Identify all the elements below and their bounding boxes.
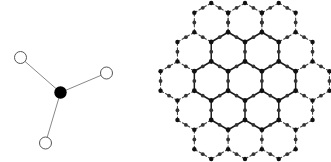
- lattice-node-midpoint: [252, 35, 256, 39]
- lattice-node-midpoint: [226, 138, 230, 142]
- lattice-node-midpoint: [235, 35, 239, 39]
- lattice-node-vertex: [260, 147, 264, 151]
- lattice-node-vertex: [158, 89, 162, 93]
- lattice-node-vertex: [192, 147, 196, 151]
- lattice-node-midpoint: [268, 6, 272, 10]
- lattice-node-midpoint: [201, 64, 205, 68]
- lattice-node-vertex: [192, 11, 196, 15]
- lattice-node-midpoint: [277, 108, 281, 112]
- lattice-node-vertex: [243, 40, 248, 45]
- lattice-node-vertex: [175, 40, 179, 44]
- lattice-node-vertex: [277, 1, 281, 5]
- lattice-node-midpoint: [167, 64, 171, 68]
- lattice-node-midpoint: [311, 108, 315, 112]
- lattice-node-midpoint: [268, 35, 272, 39]
- lattice-node-vertex: [226, 11, 230, 15]
- lattice-node-vertex: [209, 157, 213, 161]
- lattice-node-midpoint: [235, 6, 239, 10]
- central-atom: [54, 86, 66, 98]
- lattice-node-vertex: [277, 157, 281, 161]
- lattice-node-midpoint: [294, 21, 298, 25]
- lattice-node-midpoint: [252, 64, 256, 68]
- lattice-node-vertex: [243, 59, 248, 64]
- lattice-node-vertex: [175, 98, 179, 102]
- lattice-node-midpoint: [260, 79, 264, 83]
- lattice-node-vertex: [276, 118, 281, 123]
- lattice-node-vertex: [310, 59, 314, 63]
- lattice-node-midpoint: [218, 152, 222, 156]
- lattice-node-midpoint: [277, 50, 281, 54]
- ligand-atom-right: [101, 67, 113, 79]
- lattice-node-midpoint: [302, 35, 306, 39]
- lattice-node-vertex: [293, 69, 298, 74]
- lattice-node-midpoint: [209, 108, 213, 112]
- lattice-node-midpoint: [184, 35, 188, 39]
- lattice-node-vertex: [243, 98, 248, 103]
- lattice-node-midpoint: [311, 50, 315, 54]
- lattice-node-vertex: [175, 118, 179, 122]
- lattice-node-midpoint: [243, 50, 247, 54]
- lattice-node-midpoint: [319, 94, 323, 98]
- lattice-node-midpoint: [235, 64, 239, 68]
- lattice-node-vertex: [243, 157, 247, 161]
- lattice-node-midpoint: [268, 152, 272, 156]
- lattice-node-midpoint: [285, 123, 289, 127]
- lattice-node-vertex: [243, 118, 248, 123]
- lattice-node-midpoint: [201, 6, 205, 10]
- lattice-node-midpoint: [319, 64, 323, 68]
- lattice-node-vertex: [310, 40, 314, 44]
- lattice-node-midpoint: [285, 64, 289, 68]
- lattice-node-vertex: [192, 30, 196, 34]
- lattice-node-vertex: [226, 127, 231, 132]
- lattice-node-vertex: [259, 69, 264, 74]
- lattice-node-midpoint: [167, 94, 171, 98]
- lattice-node-midpoint: [285, 6, 289, 10]
- lattice-node-vertex: [293, 128, 297, 132]
- lattice-node-vertex: [226, 30, 231, 35]
- lattice-node-vertex: [276, 98, 281, 103]
- lattice-node-vertex: [209, 98, 214, 103]
- lattice-node-midpoint: [268, 94, 272, 98]
- lattice-node-vertex: [158, 69, 162, 73]
- figure-container: [0, 0, 331, 162]
- lattice-node-midpoint: [159, 79, 163, 83]
- lattice-node-midpoint: [218, 123, 222, 127]
- lattice-node-midpoint: [294, 79, 298, 83]
- lattice-node-midpoint: [285, 94, 289, 98]
- lattice-node-vertex: [259, 30, 264, 35]
- lattice-node-midpoint: [302, 123, 306, 127]
- lattice-node-vertex: [209, 1, 213, 5]
- lattice-node-vertex: [259, 88, 264, 93]
- lattice-node-midpoint: [184, 64, 188, 68]
- lattice-node-midpoint: [201, 35, 205, 39]
- lattice-node-midpoint: [268, 123, 272, 127]
- ligand-atom-bottom: [40, 137, 52, 149]
- lattice-node-midpoint: [218, 6, 222, 10]
- lattice-node-vertex: [259, 127, 264, 132]
- lattice-node-midpoint: [285, 35, 289, 39]
- lattice-node-vertex: [209, 40, 214, 45]
- lattice-node-midpoint: [218, 94, 222, 98]
- lattice-node-midpoint: [201, 123, 205, 127]
- lattice-node-midpoint: [184, 94, 188, 98]
- lattice-node-midpoint: [252, 94, 256, 98]
- lattice-node-midpoint: [252, 152, 256, 156]
- lattice-node-vertex: [192, 88, 197, 93]
- lattice-node-midpoint: [226, 21, 230, 25]
- lattice-node-vertex: [293, 11, 297, 15]
- lattice-node-midpoint: [201, 152, 205, 156]
- lattice-node-midpoint: [302, 64, 306, 68]
- lattice-node-midpoint: [235, 94, 239, 98]
- lattice-node-vertex: [226, 147, 230, 151]
- lattice-node-midpoint: [176, 108, 180, 112]
- lattice-node-vertex: [310, 118, 314, 122]
- lattice-node-midpoint: [252, 6, 256, 10]
- lattice-node-vertex: [293, 147, 297, 151]
- figure-canvas: [0, 0, 331, 162]
- lattice-node-midpoint: [226, 79, 230, 83]
- lattice-node-vertex: [293, 88, 298, 93]
- lattice-node-midpoint: [260, 138, 264, 142]
- lattice-node-midpoint: [294, 138, 298, 142]
- lattice-node-vertex: [276, 40, 281, 45]
- lattice-node-vertex: [226, 88, 231, 93]
